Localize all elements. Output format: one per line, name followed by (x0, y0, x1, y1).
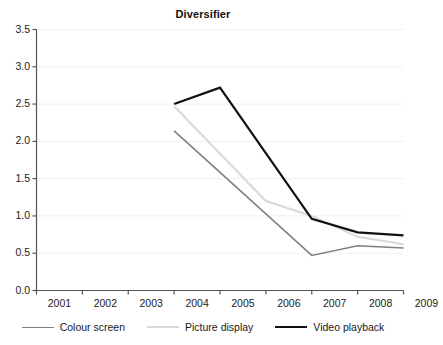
x-tick-label: 2002 (82, 297, 128, 309)
legend-item[interactable]: Picture display (147, 321, 253, 333)
y-tick-label: 3.5 (2, 24, 30, 35)
y-tick-label: 2.5 (2, 98, 30, 109)
y-tick-label: 0.5 (2, 247, 30, 258)
axis-lines (37, 30, 404, 291)
legend-item[interactable]: Colour screen (22, 321, 125, 333)
legend-swatch-icon (275, 326, 307, 328)
x-tick-label: 2004 (174, 297, 220, 309)
y-tick-label: 1.0 (2, 210, 30, 221)
y-tick-label: 3.0 (2, 61, 30, 72)
chart-legend: Colour screenPicture displayVideo playba… (0, 316, 406, 338)
x-tick-label: 2008 (358, 297, 404, 309)
series-line (174, 131, 403, 256)
gridlines (37, 30, 404, 254)
y-tick-label: 2.0 (2, 135, 30, 146)
series-line (174, 106, 403, 244)
x-tick-label: 2005 (220, 297, 266, 309)
legend-item[interactable]: Video playback (275, 321, 384, 333)
x-tick-label: 2007 (312, 297, 358, 309)
legend-item-label: Colour screen (60, 321, 125, 333)
legend-item-label: Picture display (185, 321, 253, 333)
series-lines (174, 88, 403, 256)
legend-swatch-icon (22, 327, 54, 328)
x-tick-label: 2006 (266, 297, 312, 309)
y-tick-label: 1.5 (2, 173, 30, 184)
legend-item-label: Video playback (313, 321, 384, 333)
y-tick-label: 0.0 (2, 285, 30, 296)
x-tick-label: 2001 (37, 297, 83, 309)
x-tick-label: 2003 (128, 297, 174, 309)
x-tick-label: 2009 (404, 297, 443, 309)
legend-swatch-icon (147, 326, 179, 328)
